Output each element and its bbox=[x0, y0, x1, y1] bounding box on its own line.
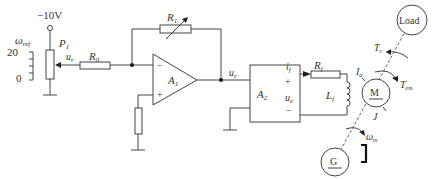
supply-label: −10V bbox=[37, 9, 62, 21]
generator: G bbox=[321, 148, 349, 176]
field-current-arrow bbox=[303, 71, 311, 77]
opamp-a1: − + A1 bbox=[153, 54, 197, 105]
svg-text:Load: Load bbox=[399, 15, 420, 26]
field-voltage-label: ue bbox=[285, 92, 293, 105]
load: Load bbox=[397, 5, 427, 35]
input-voltage-label: ur bbox=[66, 51, 74, 64]
amplifier-a2: A2 bbox=[250, 65, 300, 122]
motor: M bbox=[362, 79, 390, 107]
field-voltage-plus: + bbox=[285, 76, 291, 87]
field-inductor-lf: Lf bbox=[325, 82, 350, 106]
potentiometer-p1[interactable]: P1 bbox=[43, 37, 69, 95]
svg-text:A1: A1 bbox=[167, 74, 178, 88]
svg-text:−: − bbox=[157, 60, 163, 71]
svg-text:G: G bbox=[330, 156, 337, 167]
load-torque-label: Tc bbox=[374, 42, 383, 54]
control-voltage-label: uc bbox=[229, 67, 238, 80]
armature-current-label: Ia bbox=[355, 66, 362, 78]
bias-resistor bbox=[135, 108, 142, 134]
field-voltage-minus: − bbox=[286, 105, 292, 116]
feedback-resistor-r1[interactable]: R1 bbox=[160, 11, 191, 39]
svg-text:P1: P1 bbox=[58, 37, 69, 51]
field-current-label: if bbox=[286, 61, 292, 74]
svg-text:Rf: Rf bbox=[313, 59, 324, 73]
angular-speed-label: ωm bbox=[366, 131, 378, 143]
control-circuit-diagram: −10V ωref 20 0 P1 ur R0 R1 bbox=[0, 0, 442, 179]
svg-text:Lf: Lf bbox=[325, 89, 335, 103]
input-resistor-r0: R0 bbox=[80, 50, 110, 69]
scale-min-label: 0 bbox=[16, 72, 22, 84]
motor-torque-label: Tem bbox=[400, 79, 413, 91]
output-node bbox=[219, 78, 223, 82]
svg-text:A2: A2 bbox=[256, 88, 268, 102]
svg-text:R1: R1 bbox=[166, 11, 177, 25]
svg-text:R0: R0 bbox=[88, 50, 100, 64]
inertia-label: J bbox=[373, 111, 378, 122]
bracket-mark bbox=[361, 145, 366, 162]
svg-text:+: + bbox=[157, 89, 163, 100]
svg-text:M: M bbox=[370, 87, 379, 98]
scale-max-label: 20 bbox=[7, 46, 19, 58]
speed-reference-scale: ωref 20 0 bbox=[7, 34, 33, 84]
field-resistor-rf: Rf bbox=[311, 59, 340, 78]
